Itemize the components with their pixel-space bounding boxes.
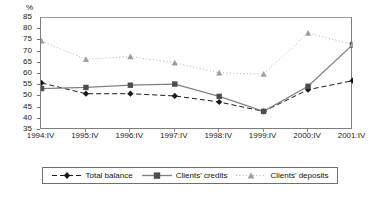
x-axis-tick-2001-IV: 2001:IV: [329, 132, 375, 140]
data-point: [305, 30, 311, 36]
legend-key-diamond-icon: [52, 171, 82, 180]
data-point: [41, 80, 45, 86]
legend-key-triangle-icon: [236, 171, 266, 180]
data-point: [41, 86, 44, 91]
legend-item-clients-credits: Clients' credits: [142, 171, 228, 180]
y-axis-tick-85: 85: [10, 13, 32, 21]
series-clients-credits: [41, 42, 353, 114]
data-point: [217, 94, 222, 99]
data-point: [172, 60, 178, 66]
data-point: [41, 38, 45, 44]
legend-label-clients-credits: Clients' credits: [175, 172, 228, 180]
y-axis-tick-60: 60: [10, 69, 32, 77]
x-axis-tick-1996-IV: 1996:IV: [106, 132, 152, 140]
legend-label-clients-deposits: Clients' deposits: [269, 172, 328, 180]
x-axis-tick-2000-IV: 2000:IV: [284, 132, 330, 140]
y-axis-tick-75: 75: [10, 35, 32, 43]
legend-item-total-balance: Total balance: [52, 171, 133, 180]
data-point: [83, 85, 88, 90]
y-axis-tickmark: [37, 129, 40, 130]
series-total-balance: [41, 78, 353, 115]
data-point: [216, 99, 222, 105]
data-point: [349, 78, 353, 84]
series-clients-deposits: [41, 30, 353, 77]
data-point: [83, 91, 89, 97]
data-point: [172, 93, 178, 99]
legend-key-square-icon: [142, 171, 172, 180]
y-axis-tick-70: 70: [10, 47, 32, 55]
y-axis-tick-65: 65: [10, 58, 32, 66]
x-axis-tick-1997-IV: 1997:IV: [151, 132, 197, 140]
y-axis-tick-55: 55: [10, 80, 32, 88]
data-point: [261, 109, 266, 114]
data-point: [128, 83, 133, 88]
y-axis-tick-80: 80: [10, 24, 32, 32]
x-axis-tick-1995-IV: 1995:IV: [62, 132, 108, 140]
y-axis-tick-45: 45: [10, 103, 32, 111]
legend-label-total-balance: Total balance: [85, 172, 133, 180]
data-point: [127, 91, 133, 97]
x-axis-tick-1994-IV: 1994:IV: [18, 132, 64, 140]
y-axis-tick-40: 40: [10, 114, 32, 122]
chart-figure: % 3540455055606570758085 1994:IV1995:IV1…: [0, 0, 382, 204]
data-point: [127, 53, 133, 59]
chart-legend: Total balance Clients' credits Clients' …: [42, 167, 338, 184]
data-point: [305, 84, 310, 89]
x-axis-tick-1998-IV: 1998:IV: [195, 132, 241, 140]
data-point: [172, 81, 177, 86]
y-axis-unit-label: %: [26, 4, 33, 12]
data-point: [83, 56, 89, 62]
series-canvas: [41, 18, 353, 130]
x-axis-tick-1999-IV: 1999:IV: [240, 132, 286, 140]
plot-area: [40, 17, 352, 129]
y-axis-tick-50: 50: [10, 91, 32, 99]
legend-item-clients-deposits: Clients' deposits: [236, 171, 328, 180]
